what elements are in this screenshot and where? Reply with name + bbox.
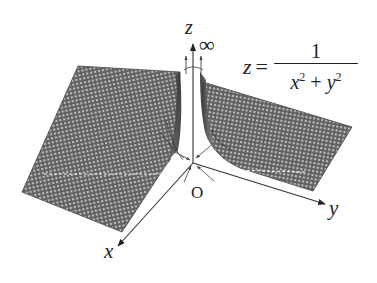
left-surface-sheet [22, 66, 184, 232]
infinity-label: ∞ [199, 32, 215, 58]
y-axis-label: y [329, 196, 338, 221]
x-axis-label: x [104, 239, 113, 264]
numerator: 1 [311, 40, 321, 62]
origin-label: O [191, 183, 203, 203]
plus-sign: + [305, 71, 326, 93]
z-axis-label: z [185, 16, 193, 39]
fraction-bar [274, 63, 358, 64]
denominator-y: y [327, 71, 336, 93]
denominator: x2 + y2 [290, 65, 341, 94]
equals-sign: = [256, 54, 268, 80]
equation-lhs: z [243, 54, 252, 80]
denominator-x: x [290, 71, 299, 93]
exponent-y: 2 [336, 70, 342, 84]
fraction: 1 x2 + y2 [274, 40, 358, 94]
surface-equation: z = 1 x2 + y2 [243, 40, 358, 94]
